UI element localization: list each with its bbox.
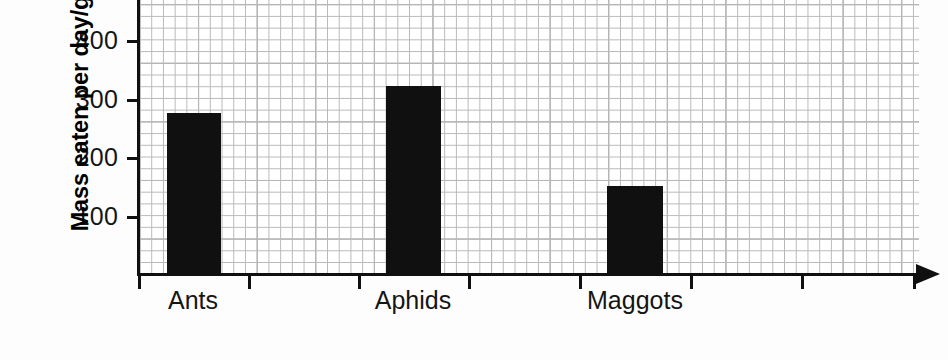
bar-maggots [607, 186, 663, 274]
plot-area-grid [140, 0, 919, 275]
x-tick-mark-7 [913, 274, 916, 289]
y-tick-mark-200 [127, 157, 140, 160]
y-axis-title: Mass eaten per day/g [67, 0, 94, 254]
bar-ants [167, 113, 221, 274]
x-axis-arrow-icon [916, 264, 940, 284]
y-tick-mark-400 [127, 40, 140, 43]
x-category-label-maggots: Maggots [573, 286, 697, 315]
bar-aphids [386, 86, 441, 274]
bottom-margin [0, 320, 948, 360]
x-category-label-aphids: Aphids [353, 286, 473, 315]
x-category-label-ants: Ants [133, 286, 253, 315]
bar-chart-screenshot: 400 300 200 100 Mass eaten per day/g Ant… [0, 0, 948, 360]
y-tick-mark-300 [127, 99, 140, 102]
y-tick-mark-100 [127, 216, 140, 219]
x-tick-mark-6 [801, 274, 804, 289]
